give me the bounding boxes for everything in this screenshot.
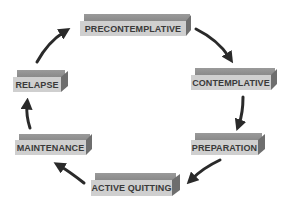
cycle-arrows — [0, 0, 287, 205]
stages-of-change-cycle-diagram: PRECONTEMPLATIVE CONTEMPLATIVE PREPARATI… — [0, 0, 287, 205]
arrow-preparation-to-active-quitting-icon — [192, 160, 220, 179]
arrow-contemplative-to-preparation-icon — [239, 97, 243, 124]
arrow-maintenance-to-relapse-icon — [27, 105, 30, 128]
arrow-precontemplative-to-contemplative-icon — [196, 29, 229, 57]
arrow-active-quitting-to-maintenance-icon — [60, 166, 84, 183]
arrow-relapse-to-precontemplative-icon — [37, 32, 64, 62]
